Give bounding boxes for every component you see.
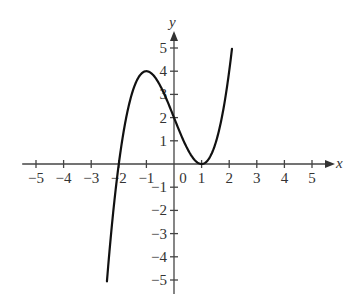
y-tick-label: −2	[151, 202, 167, 218]
x-axis-arrow-icon	[325, 160, 335, 168]
x-tick-label: −3	[83, 170, 99, 186]
y-axis-label: y	[167, 14, 176, 30]
graph-canvas: −5−4−3−2−1012345 −5−4−3−2−112345 x y	[0, 0, 355, 295]
y-tick-label: 4	[160, 63, 168, 79]
x-tick-label: 5	[308, 170, 316, 186]
y-axis-arrow-icon	[170, 31, 178, 41]
y-tick-label: −4	[151, 249, 167, 265]
x-tick-label: 2	[225, 170, 233, 186]
y-tick-label: 5	[160, 40, 168, 56]
x-tick-label: −4	[56, 170, 72, 186]
x-tick-label: −5	[28, 170, 44, 186]
y-tick-label: 2	[160, 110, 168, 126]
x-tick-label: 1	[198, 170, 206, 186]
x-tick-label: 0	[179, 170, 187, 186]
function-graph: −5−4−3−2−1012345 −5−4−3−2−112345 x y	[0, 0, 355, 295]
y-tick-label: −1	[151, 179, 167, 195]
x-tick-label: 3	[253, 170, 261, 186]
function-curve	[107, 49, 232, 281]
axes	[22, 31, 335, 294]
y-tick-label: 1	[160, 133, 168, 149]
x-tick-label: 4	[281, 170, 289, 186]
y-tick-label: −3	[151, 226, 167, 242]
x-axis-label: x	[335, 155, 343, 171]
y-tick-label: −5	[151, 272, 167, 288]
